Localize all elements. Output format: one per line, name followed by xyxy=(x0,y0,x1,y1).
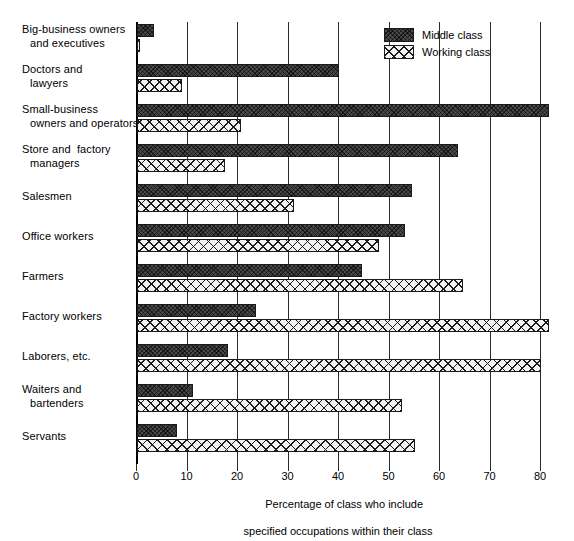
y-axis-label-line1: Office workers xyxy=(0,230,132,244)
y-axis-label-line1: Doctors and xyxy=(0,63,132,77)
y-axis-label-line1: Big-business owners xyxy=(0,23,132,37)
legend-swatch-middle-class-icon xyxy=(384,28,414,42)
y-axis-label-line1: Factory workers xyxy=(0,310,132,324)
y-axis-category-labels: Big-business ownersand executivesDoctors… xyxy=(0,22,132,464)
plot-area xyxy=(136,22,560,464)
y-axis-label-line1: Salesmen xyxy=(0,190,132,204)
y-axis-label-line1: Waiters and xyxy=(0,383,132,397)
x-axis-title-line2: specified occupations within their class xyxy=(136,525,540,539)
bar-working-class xyxy=(137,439,415,452)
bar-group xyxy=(136,222,560,262)
bar-group xyxy=(136,382,560,422)
y-axis-label: Salesmen xyxy=(0,190,132,204)
x-tick-label-40: 40 xyxy=(332,470,344,483)
x-axis-title: Percentage of class who include specifie… xyxy=(136,484,540,541)
bar-group xyxy=(136,422,560,462)
y-axis-label-line2: bartenders xyxy=(0,397,132,411)
bar-middle-class xyxy=(137,304,256,317)
bar-middle-class xyxy=(137,24,154,37)
x-tick-label-30: 30 xyxy=(281,470,293,483)
legend-label-working-class: Working class xyxy=(422,45,490,59)
bar-group xyxy=(136,62,560,102)
x-tick-label-20: 20 xyxy=(231,470,243,483)
bar-middle-class xyxy=(137,344,228,357)
x-tick-label-10: 10 xyxy=(180,470,192,483)
x-tick-label-60: 60 xyxy=(433,470,445,483)
bar-working-class xyxy=(137,79,182,92)
bar-middle-class xyxy=(137,224,405,237)
bar-group xyxy=(136,262,560,302)
y-axis-label-line2: owners and operators xyxy=(0,117,132,131)
y-axis-label: Doctors andlawyers xyxy=(0,63,132,90)
y-axis-label: Big-business ownersand executives xyxy=(0,23,132,50)
y-axis-label-line2: lawyers xyxy=(0,77,132,91)
y-axis-label-line1: Farmers xyxy=(0,270,132,284)
bar-working-class xyxy=(137,39,140,52)
bar-working-class xyxy=(137,399,402,412)
bar-working-class xyxy=(137,359,541,372)
y-axis-label: Laborers, etc. xyxy=(0,350,132,364)
bar-middle-class xyxy=(137,64,339,77)
x-tick-label-80: 80 xyxy=(534,470,546,483)
bar-group xyxy=(136,302,560,342)
y-axis-label-line2: and executives xyxy=(0,37,132,51)
bar-group xyxy=(136,342,560,382)
bar-middle-class xyxy=(137,184,412,197)
bar-middle-class xyxy=(137,384,193,397)
y-axis-label: Office workers xyxy=(0,230,132,244)
y-axis-label-line1: Small-business xyxy=(0,103,132,117)
bar-working-class xyxy=(137,119,241,132)
bar-middle-class xyxy=(137,264,362,277)
legend-label-middle-class: Middle class xyxy=(422,28,483,42)
x-tick-label-70: 70 xyxy=(483,470,495,483)
legend-item-middle-class: Middle class xyxy=(384,27,514,43)
x-axis-title-line1: Percentage of class who include xyxy=(265,498,423,510)
bar-working-class xyxy=(137,159,225,172)
x-tick-label-0: 0 xyxy=(133,470,139,483)
y-axis-label: Factory workers xyxy=(0,310,132,324)
y-axis-label-line1: Laborers, etc. xyxy=(0,350,132,364)
bar-working-class xyxy=(137,319,549,332)
bar-middle-class xyxy=(137,144,458,157)
y-axis-label: Waiters andbartenders xyxy=(0,383,132,410)
x-tick-label-50: 50 xyxy=(382,470,394,483)
bar-working-class xyxy=(137,239,379,252)
legend: Middle class Working class xyxy=(384,27,514,63)
y-axis-label: Store and factorymanagers xyxy=(0,143,132,170)
bar-group xyxy=(136,142,560,182)
legend-item-working-class: Working class xyxy=(384,44,514,60)
y-axis-label: Farmers xyxy=(0,270,132,284)
bar-middle-class xyxy=(137,104,549,117)
y-axis-label-line1: Store and factory xyxy=(0,143,132,157)
bar-group xyxy=(136,182,560,222)
bar-group xyxy=(136,102,560,142)
bar-working-class xyxy=(137,199,294,212)
legend-swatch-working-class-icon xyxy=(384,45,414,59)
y-axis-label-line2: managers xyxy=(0,157,132,171)
bar-middle-class xyxy=(137,424,177,437)
y-axis-label: Small-businessowners and operators xyxy=(0,103,132,130)
bar-working-class xyxy=(137,279,463,292)
y-axis-label-line1: Servants xyxy=(0,430,132,444)
y-axis-label: Servants xyxy=(0,430,132,444)
